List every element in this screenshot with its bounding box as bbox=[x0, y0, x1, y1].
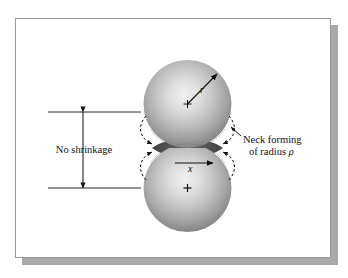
neck-forming-label-line1: Neck forming bbox=[243, 134, 302, 146]
figure-root: No shrinkage Neck forming of radius ρ r … bbox=[0, 0, 348, 278]
neck-label-leader bbox=[231, 127, 241, 136]
neck-radius-symbol: ρ bbox=[289, 146, 294, 157]
neck-radius-prefix: of radius bbox=[249, 146, 289, 157]
neck-halfwidth-symbol-label: x bbox=[188, 163, 192, 174]
no-shrinkage-label: No shrinkage bbox=[34, 144, 134, 156]
radius-symbol-label: r bbox=[200, 84, 204, 95]
neck-forming-label-line2: of radius ρ bbox=[249, 146, 294, 158]
